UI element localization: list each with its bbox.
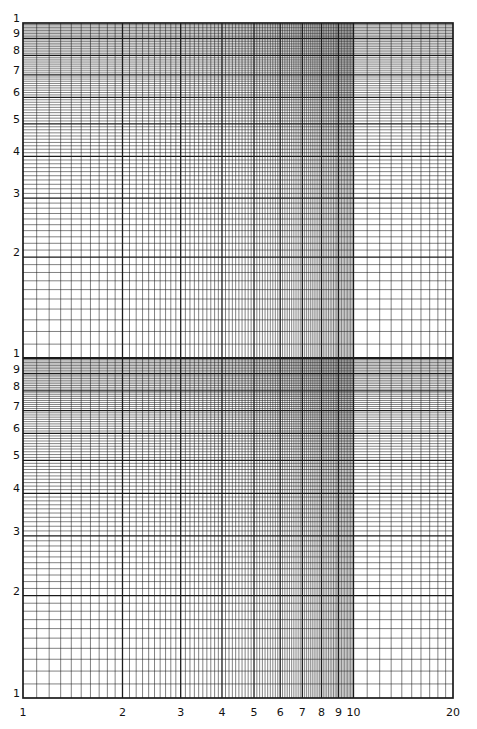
x-tick-label: 7 xyxy=(299,706,306,719)
y-tick-label: 9 xyxy=(13,27,20,40)
x-tick-label: 10 xyxy=(347,706,361,719)
y-tick-label: 4 xyxy=(13,145,20,158)
y-tick-label: 1 xyxy=(13,687,20,700)
y-tick-label: 9 xyxy=(13,363,20,376)
y-tick-label: 7 xyxy=(13,64,20,77)
x-tick-label: 2 xyxy=(119,706,126,719)
x-tick-label: 1 xyxy=(20,706,27,719)
log-log-graph-paper: 1234567891020 1234567891234567891 xyxy=(0,0,477,729)
x-tick-label: 6 xyxy=(277,706,284,719)
x-tick-label: 5 xyxy=(251,706,258,719)
y-tick-label: 1 xyxy=(13,347,20,360)
y-axis-tick-labels: 1234567891234567891 xyxy=(13,12,20,700)
x-tick-label: 20 xyxy=(446,706,460,719)
y-tick-label: 4 xyxy=(13,482,20,495)
y-tick-label: 6 xyxy=(13,422,20,435)
x-tick-label: 9 xyxy=(335,706,342,719)
y-tick-label: 2 xyxy=(13,246,20,259)
y-tick-label: 7 xyxy=(13,400,20,413)
y-tick-label: 3 xyxy=(13,187,20,200)
y-tick-label: 8 xyxy=(13,380,20,393)
y-tick-label: 5 xyxy=(13,449,20,462)
y-tick-label: 3 xyxy=(13,525,20,538)
y-tick-label: 8 xyxy=(13,44,20,57)
y-tick-label: 2 xyxy=(13,585,20,598)
y-tick-label: 6 xyxy=(13,86,20,99)
y-tick-label: 5 xyxy=(13,113,20,126)
y-tick-label: 1 xyxy=(13,12,20,25)
x-tick-label: 3 xyxy=(177,706,184,719)
x-tick-label: 8 xyxy=(318,706,325,719)
x-tick-label: 4 xyxy=(218,706,225,719)
